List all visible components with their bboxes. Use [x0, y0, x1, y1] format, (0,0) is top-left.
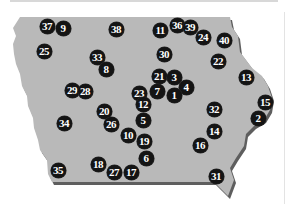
- map-marker-31[interactable]: 31: [209, 169, 224, 184]
- map-marker-24[interactable]: 24: [196, 30, 211, 45]
- map-marker-15[interactable]: 15: [258, 95, 273, 110]
- map-marker-18[interactable]: 18: [91, 157, 106, 172]
- map-marker-40[interactable]: 40: [217, 33, 232, 48]
- map-marker-10[interactable]: 10: [121, 128, 136, 143]
- map-marker-7[interactable]: 7: [150, 84, 165, 99]
- map-marker-2[interactable]: 2: [251, 111, 266, 126]
- map-marker-26[interactable]: 26: [104, 117, 119, 132]
- map-marker-38[interactable]: 38: [109, 22, 124, 37]
- map-marker-8[interactable]: 8: [99, 62, 114, 77]
- map-marker-30[interactable]: 30: [157, 47, 172, 62]
- map-marker-12[interactable]: 12: [136, 97, 151, 112]
- map-marker-3[interactable]: 3: [167, 70, 182, 85]
- map-marker-21[interactable]: 21: [152, 69, 167, 84]
- map-marker-35[interactable]: 35: [51, 163, 66, 178]
- map-marker-39[interactable]: 39: [183, 20, 198, 35]
- map-marker-14[interactable]: 14: [207, 124, 222, 139]
- map-marker-5[interactable]: 5: [136, 113, 151, 128]
- map-marker-13[interactable]: 13: [239, 70, 254, 85]
- map-marker-19[interactable]: 19: [137, 134, 152, 149]
- map-figure: 3793811363924402530223381321341723292812…: [0, 0, 288, 204]
- map-marker-11[interactable]: 11: [153, 23, 168, 38]
- map-marker-27[interactable]: 27: [107, 165, 122, 180]
- map-marker-34[interactable]: 34: [57, 116, 72, 131]
- map-marker-1[interactable]: 1: [167, 88, 182, 103]
- map-marker-32[interactable]: 32: [207, 102, 222, 117]
- map-marker-9[interactable]: 9: [56, 21, 71, 36]
- map-marker-37[interactable]: 37: [40, 19, 55, 34]
- map-marker-25[interactable]: 25: [37, 44, 52, 59]
- map-marker-17[interactable]: 17: [124, 165, 139, 180]
- map-marker-6[interactable]: 6: [139, 151, 154, 166]
- map-marker-28[interactable]: 28: [78, 84, 93, 99]
- map-marker-16[interactable]: 16: [193, 138, 208, 153]
- map-marker-22[interactable]: 22: [211, 54, 226, 69]
